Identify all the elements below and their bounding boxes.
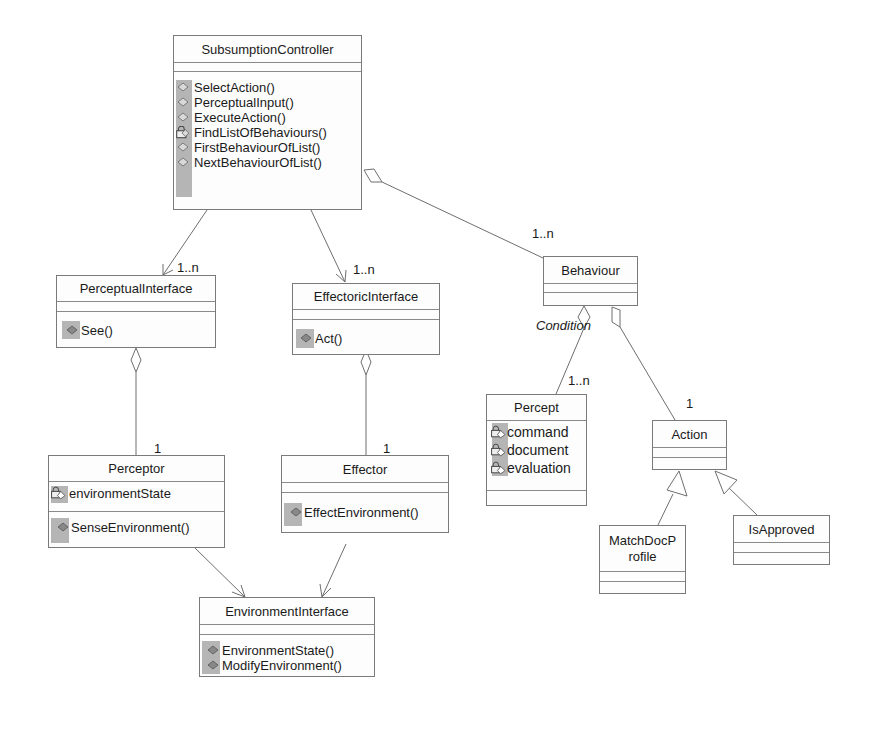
public-method-icon xyxy=(300,333,313,344)
operation-environment-state[interactable]: EnvironmentState() xyxy=(200,643,374,658)
class-subsumption-controller[interactable]: SubsumptionController SelectAction() Per… xyxy=(173,35,362,210)
public-method-icon xyxy=(207,660,220,671)
class-name: PerceptualInterface xyxy=(57,276,215,302)
attribute-environment-state[interactable]: environmentState xyxy=(49,486,224,501)
operation-effect-environment[interactable]: EffectEnvironment() xyxy=(282,505,448,520)
private-method-icon xyxy=(175,126,190,139)
class-behaviour[interactable]: Behaviour xyxy=(543,256,638,306)
class-name: Perceptor xyxy=(49,456,224,482)
public-method-icon xyxy=(57,522,70,533)
operations-compartment: EnvironmentState() ModifyEnvironment() xyxy=(200,635,374,676)
attributes-compartment: command document evaluation xyxy=(487,421,586,491)
class-name: Behaviour xyxy=(544,257,637,284)
public-method-icon xyxy=(177,157,190,168)
attributes-compartment xyxy=(282,483,448,493)
attributes-compartment xyxy=(293,310,439,320)
operation-sense-environment[interactable]: SenseEnvironment() xyxy=(49,520,224,535)
class-effectoric-interface[interactable]: EffectoricInterface Act() xyxy=(292,283,440,355)
operations-compartment xyxy=(653,458,726,469)
attributes-compartment xyxy=(57,302,215,312)
class-name: EffectoricInterface xyxy=(293,284,439,310)
attributes-compartment xyxy=(734,543,829,553)
operation-find-list-of-behaviours[interactable]: FindListOfBehaviours() xyxy=(174,125,361,140)
class-name: Percept xyxy=(487,395,586,421)
role-condition: Condition xyxy=(536,318,591,333)
attributes-compartment xyxy=(653,448,726,458)
public-method-icon xyxy=(207,645,220,656)
class-action[interactable]: Action xyxy=(652,420,727,470)
class-environment-interface[interactable]: EnvironmentInterface EnvironmentState() … xyxy=(199,597,375,677)
public-method-icon xyxy=(177,142,190,153)
class-match-doc-profile[interactable]: MatchDocP rofile xyxy=(599,525,686,594)
class-name: IsApproved xyxy=(734,516,829,543)
multiplicity-perceptual-interface: 1..n xyxy=(177,260,199,275)
operations-compartment xyxy=(544,293,637,305)
operation-see[interactable]: See() xyxy=(57,323,215,338)
attributes-compartment xyxy=(174,63,361,72)
class-name: SubsumptionController xyxy=(174,36,361,63)
operation-execute-action[interactable]: ExecuteAction() xyxy=(174,110,361,125)
class-percept[interactable]: Percept command document evaluation xyxy=(486,394,587,506)
multiplicity-percept: 1..n xyxy=(568,373,590,388)
public-method-icon xyxy=(66,325,79,336)
operation-first-behaviour-of-list[interactable]: FirstBehaviourOfList() xyxy=(174,140,361,155)
class-name: Action xyxy=(653,421,726,448)
class-perceptor[interactable]: Perceptor environmentState SenseEnvironm… xyxy=(48,455,225,548)
operations-compartment: SenseEnvironment() xyxy=(49,512,224,547)
private-attribute-icon xyxy=(50,486,66,500)
multiplicity-perceptor: 1 xyxy=(154,441,161,456)
multiplicity-behaviour: 1..n xyxy=(532,226,554,241)
public-method-icon xyxy=(177,97,190,108)
operations-compartment: SelectAction() PerceptualInput() Execute… xyxy=(174,72,361,209)
attributes-compartment xyxy=(600,572,685,582)
attributes-compartment: environmentState xyxy=(49,482,224,512)
class-name: EnvironmentInterface xyxy=(200,598,374,625)
public-method-icon xyxy=(177,82,190,93)
operation-perceptual-input[interactable]: PerceptualInput() xyxy=(174,95,361,110)
public-method-icon xyxy=(177,112,190,123)
class-is-approved[interactable]: IsApproved xyxy=(733,515,830,565)
operations-compartment: See() xyxy=(57,312,215,347)
operations-compartment xyxy=(600,582,685,593)
attributes-compartment xyxy=(544,284,637,293)
private-attribute-icon xyxy=(490,443,506,457)
attribute-document[interactable]: document xyxy=(487,441,586,459)
attribute-command[interactable]: command xyxy=(487,423,586,441)
attributes-compartment xyxy=(200,625,374,635)
public-method-icon xyxy=(290,507,303,518)
operation-select-action[interactable]: SelectAction() xyxy=(174,80,361,95)
private-attribute-icon xyxy=(490,461,506,475)
multiplicity-action: 1 xyxy=(686,396,693,411)
class-effector[interactable]: Effector EffectEnvironment() xyxy=(281,455,449,533)
operation-act[interactable]: Act() xyxy=(293,331,439,346)
operations-compartment: Act() xyxy=(293,320,439,354)
class-perceptual-interface[interactable]: PerceptualInterface See() xyxy=(56,275,216,348)
operations-compartment xyxy=(487,491,586,505)
operations-compartment: EffectEnvironment() xyxy=(282,493,448,532)
multiplicity-effectoric-interface: 1..n xyxy=(353,262,375,277)
relationship-lines xyxy=(0,0,878,735)
class-name: Effector xyxy=(282,456,448,483)
operation-next-behaviour-of-list[interactable]: NextBehaviourOfList() xyxy=(174,155,361,170)
operation-modify-environment[interactable]: ModifyEnvironment() xyxy=(200,658,374,673)
class-name: MatchDocP rofile xyxy=(600,526,685,572)
multiplicity-effector: 1 xyxy=(383,441,390,456)
attribute-evaluation[interactable]: evaluation xyxy=(487,459,586,477)
private-attribute-icon xyxy=(490,425,506,439)
operations-compartment xyxy=(734,553,829,564)
